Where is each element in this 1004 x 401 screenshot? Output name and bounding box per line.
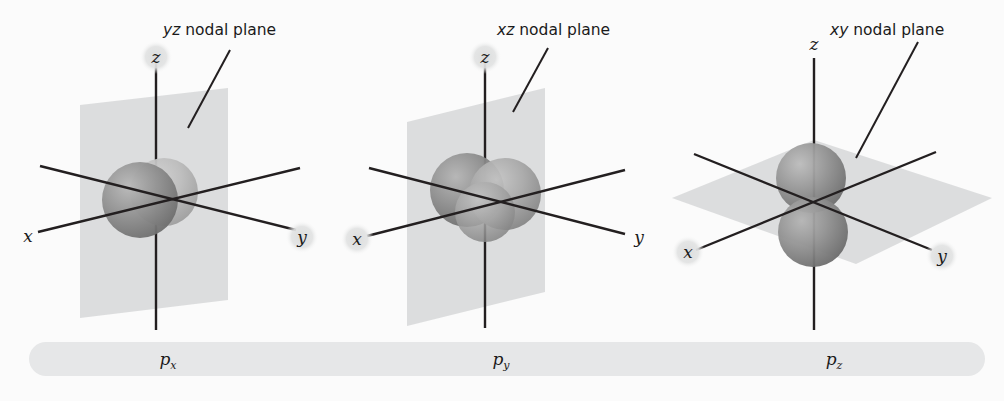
caption-py-p: p	[492, 349, 503, 369]
nodal-plane-label-xy-suffix: nodal plane	[848, 21, 944, 39]
nodal-plane-label-xy-prefix: xy	[830, 21, 848, 39]
nodal-plane-label-yz: yz nodal plane	[163, 21, 276, 39]
axis-y-label: y	[936, 246, 947, 266]
nodal-plane-label-yz-suffix: nodal plane	[180, 21, 276, 39]
axis-y-label: y	[296, 227, 307, 247]
nodal-plane-label-xz-prefix: xz	[497, 21, 514, 39]
caption-px-sub: x	[170, 359, 176, 372]
axis-x-label: x	[23, 226, 33, 246]
caption-pz-sub: z	[837, 359, 843, 372]
axis-z-label: z	[809, 34, 820, 54]
panel-px: z y x	[0, 0, 335, 340]
panel-pz: z x y	[666, 0, 1001, 340]
axis-y-label: y	[633, 227, 644, 247]
axis-z-label: z	[480, 47, 491, 67]
caption-pz-p: p	[826, 349, 837, 369]
axis-x-label: x	[352, 229, 362, 249]
caption-px: px	[128, 342, 208, 376]
caption-px-p: p	[159, 349, 170, 369]
axis-z-label: z	[151, 47, 162, 67]
caption-py-sub: y	[503, 359, 509, 372]
caption-py: py	[461, 342, 541, 376]
nodal-plane-label-yz-prefix: yz	[163, 21, 180, 39]
caption-pz: pz	[794, 342, 874, 376]
nodal-plane-label-xz: xz nodal plane	[497, 21, 610, 39]
axis-x-label: x	[683, 242, 693, 262]
nodal-plane-label-xy: xy nodal plane	[830, 21, 944, 39]
leader-line-xy	[856, 42, 918, 158]
orbital-figure: z y x	[0, 0, 1004, 401]
panel-py: z x y	[333, 0, 668, 340]
nodal-plane-label-xz-suffix: nodal plane	[514, 21, 610, 39]
